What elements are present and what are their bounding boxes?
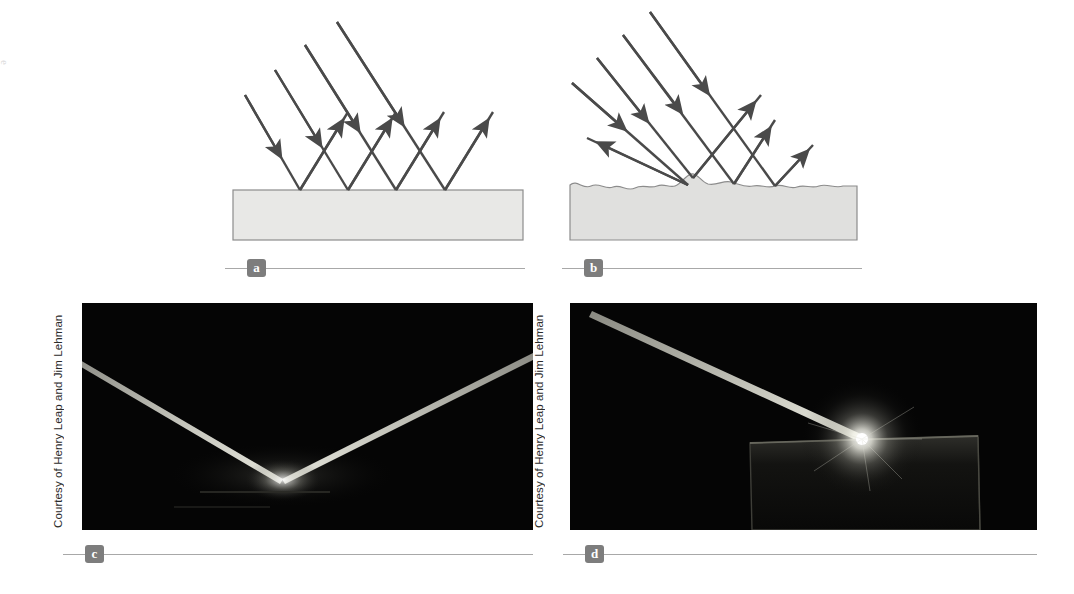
panel-b-svg [545,0,885,250]
figure-root: e [0,0,1074,594]
panel-b-reflected-rays [587,95,813,186]
panel-b-badge: b [584,259,603,277]
panel-b-reflected-arrowheads [603,107,804,186]
panel-b-surface-slab [570,174,857,240]
panel-a-diagram [200,0,540,250]
panel-c-photo-svg [82,303,533,530]
panel-a-badge: a [247,259,266,277]
panel-c-photo [82,303,533,530]
panel-b-incident-arrowheads [572,12,705,126]
panel-c-rule-line [63,554,533,555]
panel-d-caption-rule: d [563,545,1037,563]
panel-c-caption-rule: c [63,545,533,563]
panel-a-incident-rays [245,22,445,190]
panel-b-caption-rule: b [562,259,862,277]
panel-d-photo-svg [570,303,1037,530]
panel-c-badge: c [85,545,104,563]
panel-a-svg [200,0,540,250]
panel-c-reflection-point-glow [243,458,323,502]
panel-d-credit: Courtesy of Henry Leap and Jim Lehman [533,300,545,528]
panel-a-reflected-rays [300,112,493,190]
panel-b-diagram [545,0,885,250]
panel-b-incident-rays [572,12,775,186]
panel-a-incident-arrowheads [245,22,400,152]
panel-c-mirror-edge [174,506,270,508]
panel-a-surface-slab [233,190,523,240]
panel-d-badge: d [585,545,604,563]
panel-c-mirror-surface [200,491,330,493]
panel-b-rule-line [562,268,862,269]
panel-d-rule-line [563,554,1037,555]
panel-a-caption-rule: a [225,259,525,277]
panel-d-photo [570,303,1037,530]
panel-a-rule-line [225,268,525,269]
scan-edge-artifact: e [0,60,10,100]
panel-c-credit: Courtesy of Henry Leap and Jim Lehman [52,300,64,528]
